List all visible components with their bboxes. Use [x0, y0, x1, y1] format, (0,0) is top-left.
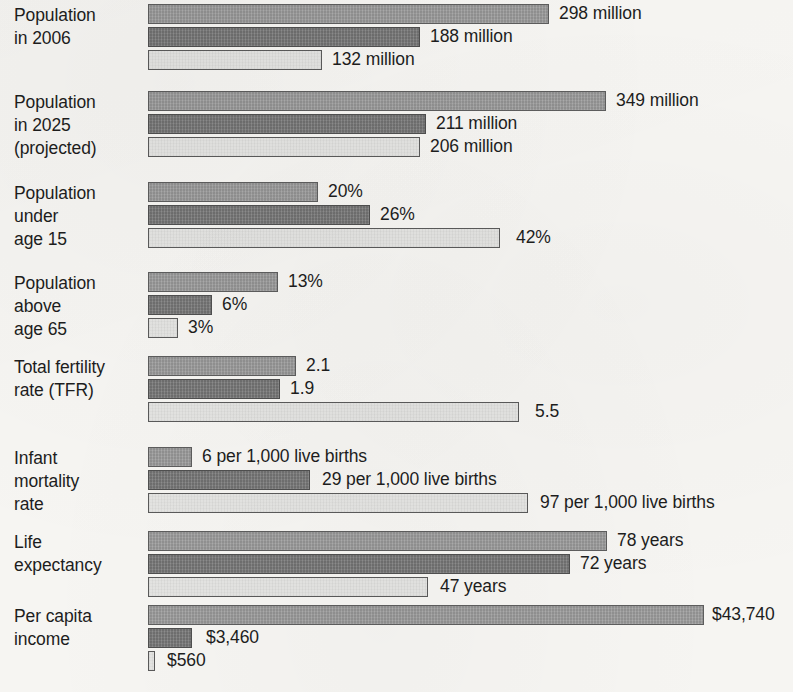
bar-dark [148, 379, 280, 399]
bar-light [148, 228, 500, 248]
bar-row: $560 [148, 651, 793, 671]
bar-row: 349 million [148, 91, 793, 111]
bar-dark [148, 114, 426, 134]
bar-value-label: 206 million [430, 136, 513, 156]
bar-row: 29 per 1,000 live births [148, 470, 793, 490]
bar-light [148, 402, 519, 422]
bar-value-label: 42% [516, 227, 551, 247]
bar-row: 47 years [148, 577, 793, 597]
bar-row: 26% [148, 205, 793, 225]
bar-row: 97 per 1,000 live births [148, 493, 793, 513]
bar-row: 298 million [148, 4, 793, 24]
bar-medium [148, 447, 192, 467]
bar-value-label: 1.9 [290, 378, 314, 398]
bar-row: $43,740 [148, 605, 793, 625]
bar-value-label: $3,460 [206, 627, 259, 647]
bar-value-label: $43,740 [712, 604, 775, 624]
bar-light [148, 577, 428, 597]
indicator-group: Total fertility rate (TFR)2.11.95.5 [0, 356, 793, 425]
bar-dark [148, 295, 212, 315]
bar-medium [148, 531, 607, 551]
bar-row: $3,460 [148, 628, 793, 648]
bar-value-label: 26% [380, 204, 415, 224]
bar-row: 3% [148, 318, 793, 338]
bar-value-label: 97 per 1,000 live births [540, 492, 715, 512]
bar-dark [148, 554, 570, 574]
bar-row: 132 million [148, 50, 793, 70]
bar-value-label: 349 million [616, 90, 699, 110]
bar-row: 13% [148, 272, 793, 292]
indicator-group: Per capita income$43,740$3,460$560 [0, 605, 793, 674]
bar-value-label: 6 per 1,000 live births [202, 446, 367, 466]
bar-value-label: 188 million [430, 26, 513, 46]
bar-value-label: $560 [167, 650, 206, 670]
indicator-label: Population above age 65 [14, 272, 142, 341]
bar-row: 78 years [148, 531, 793, 551]
indicator-label: Life expectancy [14, 531, 142, 577]
indicator-group: Infant mortality rate6 per 1,000 live bi… [0, 447, 793, 516]
indicator-group: Population above age 6513%6%3% [0, 272, 793, 341]
indicator-label: Per capita income [14, 605, 142, 651]
bar-row: 6 per 1,000 live births [148, 447, 793, 467]
bar-value-label: 5.5 [535, 401, 559, 421]
bar-value-label: 211 million [436, 113, 517, 133]
bar-value-label: 13% [288, 271, 323, 291]
bar-medium [148, 356, 296, 376]
bar-dark [148, 205, 370, 225]
indicator-group: Population in 2025 (projected)349 millio… [0, 91, 793, 160]
bar-dark [148, 470, 310, 490]
bar-row: 72 years [148, 554, 793, 574]
comparative-bar-chart: Population in 2006298 million188 million… [0, 0, 793, 692]
bar-value-label: 78 years [617, 530, 683, 550]
bar-medium [148, 272, 278, 292]
bar-light [148, 137, 420, 157]
bar-value-label: 20% [328, 181, 363, 201]
indicator-label: Population under age 15 [14, 182, 142, 251]
bar-row: 2.1 [148, 356, 793, 376]
bar-row: 5.5 [148, 402, 793, 422]
bar-medium [148, 605, 704, 625]
bar-value-label: 2.1 [306, 355, 330, 375]
bar-value-label: 132 million [332, 49, 415, 69]
indicator-group: Population in 2006298 million188 million… [0, 4, 793, 73]
bar-dark [148, 628, 192, 648]
bar-value-label: 298 million [559, 3, 642, 23]
bar-light [148, 50, 322, 70]
bar-value-label: 47 years [440, 576, 506, 596]
bar-row: 42% [148, 228, 793, 248]
indicator-label: Population in 2006 [14, 4, 142, 50]
bar-medium [148, 182, 318, 202]
indicator-group: Life expectancy78 years72 years47 years [0, 531, 793, 600]
bar-value-label: 3% [188, 317, 213, 337]
bar-light [148, 651, 155, 671]
bar-medium [148, 91, 606, 111]
bar-value-label: 6% [222, 294, 247, 314]
bar-row: 188 million [148, 27, 793, 47]
indicator-label: Infant mortality rate [14, 447, 142, 516]
bar-row: 211 million [148, 114, 793, 134]
bar-value-label: 29 per 1,000 live births [322, 469, 497, 489]
indicator-label: Total fertility rate (TFR) [14, 356, 142, 402]
bar-dark [148, 27, 420, 47]
bar-light [148, 318, 178, 338]
indicator-label: Population in 2025 (projected) [14, 91, 142, 160]
bar-value-label: 72 years [580, 553, 646, 573]
indicator-group: Population under age 1520%26%42% [0, 182, 793, 251]
bar-medium [148, 4, 549, 24]
bar-row: 206 million [148, 137, 793, 157]
bar-row: 6% [148, 295, 793, 315]
bar-row: 20% [148, 182, 793, 202]
bar-light [148, 493, 528, 513]
bar-row: 1.9 [148, 379, 793, 399]
